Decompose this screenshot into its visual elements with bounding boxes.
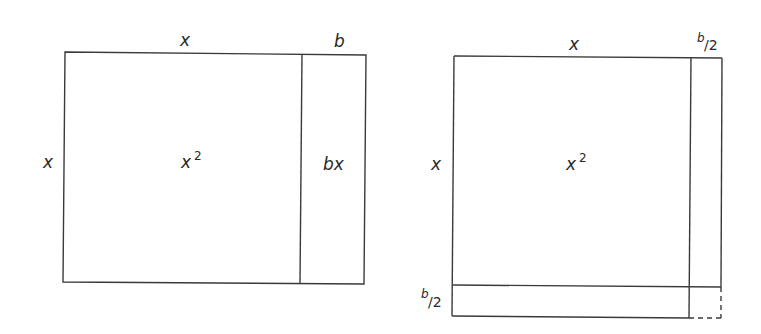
right-bottom-half-den: /2 — [428, 294, 442, 310]
left-top-x-label: x — [179, 30, 191, 50]
left-x-squared-label: x — [180, 152, 192, 172]
left-exponent: 2 — [194, 149, 202, 163]
right-horizontal-divider — [453, 285, 721, 287]
right-vertical-divider — [689, 57, 691, 318]
completing-square-diagram: x b x x 2 bx x b /2 x x 2 b /2 — [0, 0, 761, 334]
left-side-x-label: x — [42, 152, 54, 172]
left-top-b-label: b — [334, 31, 345, 51]
right-top-x-label: x — [568, 34, 580, 54]
left-bx-label: bx — [323, 154, 345, 174]
right-top-edge — [454, 56, 722, 58]
right-top-half-den: /2 — [704, 37, 718, 53]
right-x-squared-label: x — [565, 154, 577, 174]
right-bottom-edge — [452, 316, 689, 318]
right-figure: x b /2 x x 2 b /2 — [421, 31, 722, 318]
right-right-edge — [721, 58, 722, 287]
right-side-x-label: x — [430, 154, 442, 174]
left-divider — [300, 54, 302, 284]
right-left-edge — [452, 56, 454, 316]
right-exponent: 2 — [579, 151, 587, 165]
left-outer-rectangle — [63, 52, 366, 284]
left-figure: x b x x 2 bx — [42, 30, 366, 284]
